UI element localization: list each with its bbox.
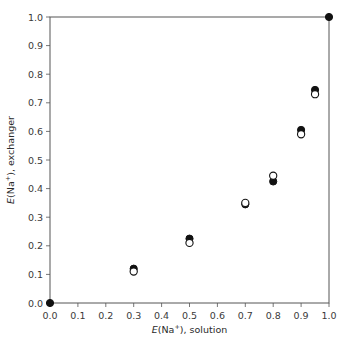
y-tick-label: 0.3 xyxy=(28,212,43,223)
x-tick-label: 1.0 xyxy=(321,310,336,321)
data-points xyxy=(46,13,332,306)
y-tick-label: 0.7 xyxy=(28,97,43,108)
open-data-point xyxy=(242,199,249,206)
filled-data-point xyxy=(46,299,53,306)
y-tick-label: 0.6 xyxy=(28,126,43,137)
scatter-chart: 0.00.10.20.30.40.50.60.70.80.91.0 0.00.1… xyxy=(0,0,345,349)
plot-frame xyxy=(50,17,329,303)
x-tick-label: 0.1 xyxy=(70,310,85,321)
open-data-point xyxy=(130,268,137,275)
x-axis-ticks: 0.00.10.20.30.40.50.60.70.80.91.0 xyxy=(42,303,336,321)
y-tick-label: 0.1 xyxy=(28,269,43,280)
y-tick-label: 0.5 xyxy=(28,155,43,166)
y-tick-label: 0.4 xyxy=(28,183,43,194)
x-tick-label: 0.7 xyxy=(238,310,253,321)
open-data-point xyxy=(186,239,193,246)
filled-data-point xyxy=(325,13,332,20)
x-tick-label: 0.3 xyxy=(126,310,141,321)
x-tick-label: 0.9 xyxy=(294,310,309,321)
open-data-point xyxy=(298,131,305,138)
x-tick-label: 0.6 xyxy=(210,310,225,321)
x-tick-label: 0.8 xyxy=(266,310,281,321)
x-tick-label: 0.5 xyxy=(182,310,197,321)
y-tick-label: 1.0 xyxy=(28,12,43,23)
x-tick-label: 0.0 xyxy=(42,310,57,321)
open-data-point xyxy=(311,91,318,98)
y-axis-title: E(Na+), exchanger xyxy=(4,116,16,204)
y-axis-ticks: 0.00.10.20.30.40.50.60.70.80.91.0 xyxy=(28,12,50,309)
y-tick-label: 0.8 xyxy=(28,69,43,80)
x-tick-label: 0.2 xyxy=(98,310,113,321)
x-tick-label: 0.4 xyxy=(154,310,169,321)
y-tick-label: 0.2 xyxy=(28,240,43,251)
open-data-point xyxy=(270,172,277,179)
x-axis-title: E(Na+), solution xyxy=(152,323,227,335)
y-tick-label: 0.0 xyxy=(28,298,43,309)
y-tick-label: 0.9 xyxy=(28,40,43,51)
